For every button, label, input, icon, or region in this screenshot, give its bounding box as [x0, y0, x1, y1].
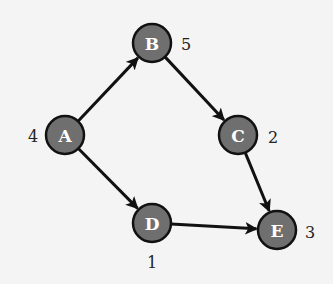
edge-c-e	[245, 153, 269, 211]
node-weight-label: 3	[305, 223, 315, 242]
node-weight-label: 4	[28, 127, 38, 146]
node-a: A4	[28, 116, 84, 154]
node-label: B	[145, 34, 159, 54]
node-label: A	[57, 126, 72, 146]
node-label: C	[231, 126, 245, 146]
node-weight-label: 5	[181, 35, 191, 54]
node-label: E	[271, 221, 284, 241]
nodes-layer: A4B5C2D1E3	[28, 24, 315, 272]
edge-b-c	[165, 57, 224, 120]
directed-graph: A4B5C2D1E3	[0, 0, 333, 284]
node-weight-label: 2	[268, 128, 278, 147]
edge-a-d	[78, 149, 137, 209]
edge-a-b	[78, 58, 138, 121]
node-d: D1	[133, 204, 171, 272]
edge-d-e	[171, 224, 257, 229]
node-label: D	[145, 214, 160, 234]
node-c: C2	[219, 116, 278, 154]
node-b: B5	[133, 24, 191, 62]
node-weight-label: 1	[147, 253, 157, 272]
node-e: E3	[258, 211, 315, 249]
